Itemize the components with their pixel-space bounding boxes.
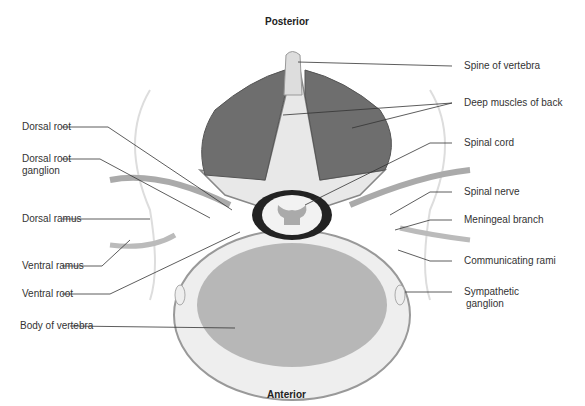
label-dorsal-ramus: Dorsal ramus bbox=[22, 213, 81, 225]
label-body-of-vertebra: Body of vertebra bbox=[20, 320, 93, 332]
label-sympathetic-ganglion: Sympathetic ganglion bbox=[464, 286, 519, 310]
label-dorsal-root: Dorsal root bbox=[22, 121, 71, 133]
label-ventral-ramus: Ventral ramus bbox=[22, 260, 84, 272]
label-meningeal-branch: Meningeal branch bbox=[464, 214, 544, 226]
label-spine-of-vertebra: Spine of vertebra bbox=[464, 60, 540, 72]
deep-muscle-right bbox=[305, 70, 391, 180]
label-spinal-nerve: Spinal nerve bbox=[464, 186, 520, 198]
label-deep-muscles-of-back: Deep muscles of back bbox=[464, 97, 562, 109]
label-ventral-root: Ventral root bbox=[22, 288, 73, 300]
orientation-anterior: Anterior bbox=[267, 389, 306, 400]
orientation-posterior: Posterior bbox=[265, 16, 309, 27]
label-spinal-cord: Spinal cord bbox=[464, 137, 514, 149]
label-communicating-rami: Communicating rami bbox=[464, 255, 556, 267]
label-dorsal-root-ganglion: Dorsal root ganglion bbox=[22, 153, 71, 177]
